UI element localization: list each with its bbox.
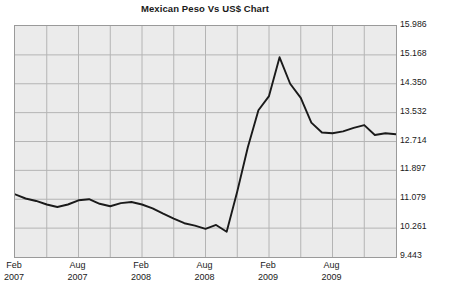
y-axis-tick-label: 13.532 <box>400 107 427 116</box>
y-axis-tick-label: 11.897 <box>400 164 426 173</box>
y-axis-tick-label: 9.443 <box>400 251 422 260</box>
x-axis-tick-month: Feb <box>118 259 164 271</box>
chart-plot-svg <box>15 26 396 257</box>
x-axis-tick-month: Feb <box>0 259 37 271</box>
x-axis-tick-label: Feb2009 <box>245 259 291 283</box>
x-axis-tick-label: Aug2009 <box>309 259 355 283</box>
x-axis-tick-year: 2008 <box>118 271 164 283</box>
plot-area <box>14 25 397 258</box>
x-axis-tick-year: 2007 <box>0 271 37 283</box>
y-axis-tick-label: 10.261 <box>400 222 427 231</box>
y-axis-tick-label: 15.986 <box>400 20 427 29</box>
y-axis-tick-label: 14.350 <box>400 78 427 87</box>
x-axis-tick-month: Aug <box>309 259 355 271</box>
x-axis-tick-year: 2009 <box>245 271 291 283</box>
x-axis-tick-month: Feb <box>245 259 291 271</box>
x-axis-tick-label: Aug2008 <box>182 259 228 283</box>
x-axis-tick-year: 2009 <box>309 271 355 283</box>
x-axis-tick-month: Aug <box>182 259 228 271</box>
x-axis-tick-year: 2007 <box>55 271 101 283</box>
x-axis-tick-label: Feb2008 <box>118 259 164 283</box>
y-axis-tick-label: 11.079 <box>400 193 426 202</box>
chart-container: Mexican Peso Vs US$ Chart 15.98615.16814… <box>0 0 454 291</box>
x-axis-tick-label: Aug2007 <box>55 259 101 283</box>
y-axis-tick-label: 15.168 <box>400 49 427 58</box>
x-axis-tick-month: Aug <box>55 259 101 271</box>
chart-title: Mexican Peso Vs US$ Chart <box>0 3 410 14</box>
x-axis-tick-year: 2008 <box>182 271 228 283</box>
y-axis-tick-label: 12.714 <box>400 136 427 145</box>
x-axis-tick-label: Feb2007 <box>0 259 37 283</box>
